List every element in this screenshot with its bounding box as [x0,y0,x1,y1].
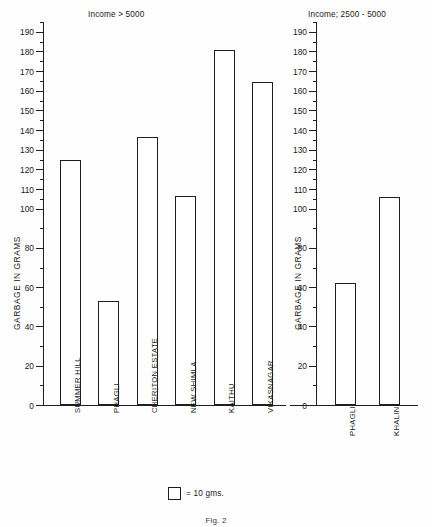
x-axis-category-label: NEW SHIMLA [189,361,198,413]
y-axis-tick [36,366,43,367]
y-axis-minor-tick [40,179,43,180]
y-axis-minor-tick [40,385,43,386]
y-axis-tick [36,91,43,92]
y-axis-tick-label: 20 [25,363,34,371]
y-axis-tick [36,326,43,327]
chart-panel-income-above-5000: Income > 5000 GARBAGE IN GRAMS 020406080… [0,0,292,527]
y-axis-line-right [316,22,317,406]
y-axis-tick [36,71,43,72]
chart-title-left: Income > 5000 [88,10,144,19]
bar [252,82,273,405]
y-axis-tick [309,248,316,249]
y-axis-minor-tick [40,101,43,102]
y-axis-minor-tick [40,81,43,82]
y-axis-minor-tick [40,307,43,308]
y-axis-tick-label: 80 [298,245,307,253]
y-axis-tick [36,209,43,210]
y-axis-tick [309,150,316,151]
figure-container: Income > 5000 GARBAGE IN GRAMS 020406080… [0,0,432,527]
plot-area-right: 020406080100110120130140150160170180190 [316,22,424,406]
bar [379,197,400,405]
legend-label: = 10 gms. [186,489,224,498]
y-axis-minor-tick [40,346,43,347]
y-axis-tick-label: 180 [20,48,34,56]
y-axis-tick-label: 0 [29,402,34,410]
y-axis-tick-label: 40 [298,323,307,331]
x-axis-category-label: SUMMER HILL [73,357,82,413]
y-axis-tick-label: 170 [293,68,307,76]
y-axis-minor-tick [313,120,316,121]
y-axis-tick-label: 120 [293,166,307,174]
y-axis-minor-tick [40,61,43,62]
y-axis-tick [309,405,316,406]
plot-area-left: 020406080100110120130140150160170180190 [43,22,286,406]
y-axis-tick-label: 110 [21,186,34,194]
y-axis-tick-label: 100 [20,205,34,213]
y-axis-tick-label: 60 [298,284,307,292]
y-axis-tick [36,189,43,190]
y-axis-minor-tick [313,199,316,200]
y-axis-minor-tick [313,179,316,180]
y-axis-minor-tick [313,307,316,308]
y-axis-tick-label: 100 [293,205,307,213]
y-axis-tick [309,189,316,190]
x-axis-category-label: VIKASNAGAR [266,360,275,413]
y-axis-tick [309,71,316,72]
y-axis-tick [36,169,43,170]
y-axis-tick-label: 150 [293,107,307,115]
y-axis-minor-tick [40,42,43,43]
y-axis-tick [36,110,43,111]
figure-caption: Fig. 2 [0,516,432,525]
y-axis-tick [309,326,316,327]
x-axis-category-label: CHERITON ESTATE [150,338,159,413]
y-axis-tick [36,130,43,131]
legend: = 10 gms. [168,487,224,500]
y-axis-minor-tick [313,385,316,386]
y-axis-minor-tick [40,199,43,200]
bar [335,283,356,405]
y-axis-tick [36,405,43,406]
y-axis-tick-label: 130 [293,146,307,154]
y-axis-minor-tick [313,101,316,102]
y-axis-tick-label: 160 [20,88,34,96]
x-axis-category-label: KHALINI [392,404,401,436]
y-axis-minor-tick [40,228,43,229]
y-axis-tick-label: 120 [20,166,34,174]
y-axis-minor-tick [313,61,316,62]
y-axis-tick [36,32,43,33]
x-axis-category-label: PHAGLI [112,383,121,413]
open-square-icon [168,487,181,500]
y-axis-tick-label: 190 [20,29,34,37]
y-axis-minor-tick [40,22,43,23]
y-axis-minor-tick [313,140,316,141]
y-axis-tick [309,287,316,288]
y-axis-tick [309,110,316,111]
y-axis-tick-label: 40 [25,323,34,331]
x-axis-category-label: KAITHU [227,383,236,413]
y-axis-tick-label: 180 [293,48,307,56]
y-axis-minor-tick [40,140,43,141]
y-axis-tick [309,366,316,367]
y-axis-tick-label: 60 [25,284,34,292]
x-axis-category-label: PHAGLI [348,406,357,436]
y-axis-tick [309,209,316,210]
chart-title-right: Income; 2500 - 5000 [308,10,386,19]
y-axis-tick-label: 170 [20,68,34,76]
y-axis-tick-label: 140 [293,127,307,135]
y-axis-tick-label: 110 [294,186,307,194]
y-axis-tick-label: 80 [25,245,34,253]
y-axis-tick [309,51,316,52]
y-axis-tick-label: 190 [293,29,307,37]
y-axis-tick-label: 150 [20,107,34,115]
y-axis-minor-tick [313,22,316,23]
y-axis-tick [36,248,43,249]
y-axis-minor-tick [40,120,43,121]
y-axis-label-left: GARBAGE IN GRAMS [12,236,22,330]
y-axis-minor-tick [40,268,43,269]
y-axis-minor-tick [313,268,316,269]
y-axis-tick [36,150,43,151]
y-axis-tick [309,91,316,92]
y-axis-tick [309,32,316,33]
y-axis-tick [309,169,316,170]
y-axis-tick-label: 130 [20,146,34,154]
